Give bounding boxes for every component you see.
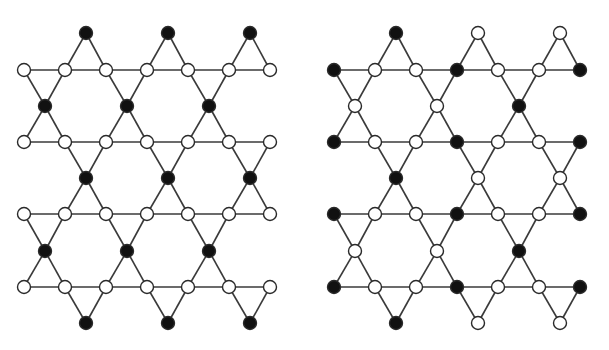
filled-site — [80, 317, 93, 330]
lattice-nodes — [18, 27, 277, 330]
empty-site — [264, 64, 277, 77]
filled-site — [451, 136, 464, 149]
filled-site — [39, 100, 52, 113]
diagram-canvas — [0, 0, 609, 350]
filled-site — [513, 245, 526, 258]
filled-site — [451, 281, 464, 294]
filled-site — [328, 136, 341, 149]
filled-site — [162, 27, 175, 40]
empty-site — [223, 281, 236, 294]
empty-site — [100, 281, 113, 294]
empty-site — [369, 136, 382, 149]
filled-site — [574, 136, 587, 149]
empty-site — [533, 281, 546, 294]
empty-site — [141, 64, 154, 77]
kagome-lattice-figure — [0, 0, 609, 350]
filled-site — [39, 245, 52, 258]
filled-site — [328, 208, 341, 221]
empty-site — [533, 64, 546, 77]
empty-site — [431, 100, 444, 113]
empty-site — [100, 136, 113, 149]
empty-site — [223, 64, 236, 77]
filled-site — [390, 172, 403, 185]
empty-site — [223, 208, 236, 221]
empty-site — [100, 208, 113, 221]
empty-site — [264, 208, 277, 221]
filled-site — [162, 172, 175, 185]
empty-site — [410, 281, 423, 294]
filled-site — [451, 208, 464, 221]
empty-site — [554, 172, 567, 185]
empty-site — [18, 64, 31, 77]
filled-site — [390, 27, 403, 40]
empty-site — [554, 27, 567, 40]
empty-site — [141, 281, 154, 294]
filled-site — [203, 245, 216, 258]
empty-site — [141, 208, 154, 221]
filled-site — [203, 100, 216, 113]
empty-site — [182, 208, 195, 221]
empty-site — [223, 136, 236, 149]
filled-site — [574, 281, 587, 294]
empty-site — [100, 64, 113, 77]
filled-site — [574, 208, 587, 221]
empty-site — [492, 281, 505, 294]
filled-site — [80, 172, 93, 185]
empty-site — [369, 281, 382, 294]
empty-site — [18, 281, 31, 294]
empty-site — [349, 245, 362, 258]
empty-site — [182, 64, 195, 77]
empty-site — [349, 100, 362, 113]
empty-site — [369, 64, 382, 77]
empty-site — [18, 208, 31, 221]
empty-site — [264, 281, 277, 294]
empty-site — [554, 317, 567, 330]
empty-site — [431, 245, 444, 258]
filled-site — [574, 64, 587, 77]
filled-site — [121, 100, 134, 113]
filled-site — [328, 281, 341, 294]
right-lattice-panel — [328, 27, 587, 330]
empty-site — [472, 27, 485, 40]
empty-site — [410, 64, 423, 77]
left-lattice-panel — [18, 27, 277, 330]
empty-site — [492, 136, 505, 149]
empty-site — [182, 281, 195, 294]
filled-site — [513, 100, 526, 113]
lattice-nodes — [328, 27, 587, 330]
empty-site — [472, 172, 485, 185]
filled-site — [244, 172, 257, 185]
filled-site — [328, 64, 341, 77]
empty-site — [59, 208, 72, 221]
empty-site — [492, 208, 505, 221]
filled-site — [244, 27, 257, 40]
empty-site — [472, 317, 485, 330]
filled-site — [80, 27, 93, 40]
empty-site — [533, 208, 546, 221]
empty-site — [533, 136, 546, 149]
empty-site — [59, 64, 72, 77]
empty-site — [182, 136, 195, 149]
empty-site — [369, 208, 382, 221]
empty-site — [492, 64, 505, 77]
empty-site — [59, 136, 72, 149]
filled-site — [390, 317, 403, 330]
filled-site — [162, 317, 175, 330]
empty-site — [264, 136, 277, 149]
filled-site — [121, 245, 134, 258]
filled-site — [244, 317, 257, 330]
empty-site — [410, 136, 423, 149]
empty-site — [141, 136, 154, 149]
empty-site — [410, 208, 423, 221]
empty-site — [18, 136, 31, 149]
filled-site — [451, 64, 464, 77]
empty-site — [59, 281, 72, 294]
